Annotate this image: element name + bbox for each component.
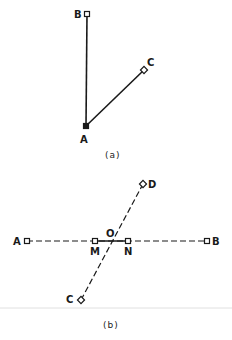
point-b-marker (85, 12, 90, 17)
point-b-marker (205, 239, 210, 244)
label-b: B (74, 9, 82, 20)
label-c: C (147, 57, 154, 68)
figure-b: A B C D M N O (b) (0, 179, 232, 330)
label-o: O (106, 228, 115, 239)
point-a-marker (84, 124, 89, 129)
segment-ac (86, 70, 144, 126)
label-b: B (212, 236, 220, 247)
point-d-marker (139, 180, 146, 187)
point-m-marker (93, 239, 98, 244)
caption-b: (b) (103, 320, 119, 330)
point-a-marker (25, 239, 30, 244)
label-d: D (148, 179, 156, 190)
label-n: N (124, 246, 132, 257)
label-m: M (90, 246, 100, 257)
label-a: A (80, 134, 88, 145)
caption-a: (a) (105, 150, 121, 160)
segment-ab (86, 14, 87, 126)
segment-cd-dashed (81, 184, 143, 300)
point-n-marker (126, 239, 131, 244)
figure-a: A B C (a) (74, 9, 154, 160)
label-c: C (66, 294, 73, 305)
geometry-figure: A B C (a) A B C D M N O (b) (0, 0, 232, 340)
label-a: A (13, 236, 21, 247)
point-c-marker (77, 296, 84, 303)
